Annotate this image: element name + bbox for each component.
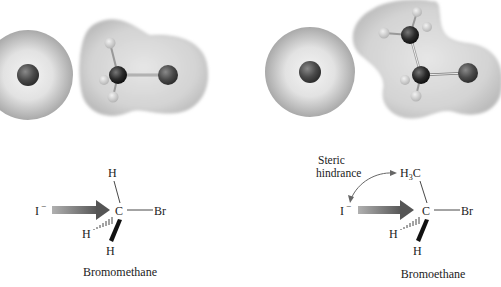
- attack-arrow: [52, 200, 110, 220]
- bromoethane-model: [353, 0, 501, 118]
- caption-bromomethane: Bromomethane: [83, 265, 157, 279]
- bond-top: [420, 181, 427, 203]
- hashed-h-label: H: [82, 227, 91, 241]
- methyl-label: H3C: [400, 166, 421, 182]
- bond-top: [114, 181, 120, 203]
- carbon-label: C: [115, 204, 123, 218]
- iodide-label: I: [340, 204, 344, 218]
- iodide-charge: −: [41, 201, 46, 211]
- hashed-h-label: H: [389, 227, 398, 241]
- top-h-label: H: [108, 166, 117, 180]
- wedge-h-label: H: [106, 244, 115, 258]
- bromine-label: Br: [154, 204, 166, 218]
- iodide-label: I: [35, 204, 39, 218]
- carbon-label: C: [422, 204, 430, 218]
- annotation-hindrance: hindrance: [316, 167, 361, 179]
- iodide-charge: −: [346, 201, 351, 211]
- wedge-h-label: H: [413, 244, 422, 258]
- attack-arrow: [358, 200, 414, 220]
- annotation-steric: Steric: [318, 154, 345, 166]
- bromine-label: Br: [461, 204, 473, 218]
- bromomethane-structure: H I − C Br H H Bromomethane: [35, 166, 166, 279]
- solid-wedge-bond: [109, 219, 122, 242]
- iodide-sphere-left: [0, 30, 73, 120]
- solid-wedge-bond: [416, 219, 429, 242]
- bromomethane-model: [80, 20, 208, 116]
- bromoethane-structure: Steric hindrance H3C I − C Br H: [316, 154, 473, 281]
- iodide-sphere-right: [265, 27, 355, 117]
- sn2-steric-figure: H I − C Br H H Bromomethane Steric hindr…: [0, 0, 501, 287]
- caption-bromoethane: Bromoethane: [401, 267, 466, 281]
- hashed-wedge-bond: [401, 217, 419, 230]
